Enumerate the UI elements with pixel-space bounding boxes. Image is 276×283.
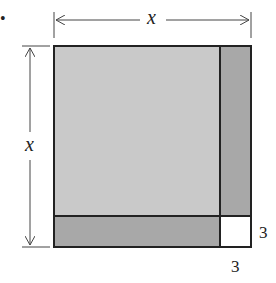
top-dimension-label: x [147,6,156,29]
bottom-strip-3x [54,216,220,247]
small-square-9 [220,216,251,247]
x-squared-region [54,46,220,216]
right-strip-3x [220,46,251,216]
left-dimension-label: x [25,133,34,156]
bottom-small-label: 3 [231,257,240,277]
bullet: • [0,10,6,28]
completing-square-diagram [0,0,276,283]
right-small-label: 3 [259,223,268,243]
